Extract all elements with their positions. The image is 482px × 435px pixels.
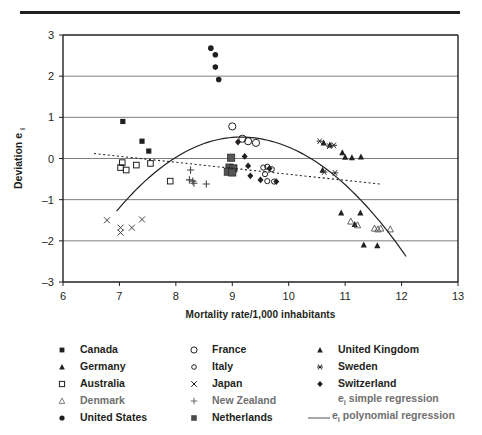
legend-item[interactable]: New Zealand [184,392,306,409]
series-switzerland [235,139,279,185]
cross-x-icon [184,375,210,392]
data-point [216,77,222,83]
data-point [213,64,219,70]
filled-triangle-icon [52,358,78,375]
legend-item-label: United States [78,409,147,426]
data-point [361,242,367,248]
legend-item[interactable]: ei polynomial regression [310,409,475,426]
legend-item-label: New Zealand [210,392,276,409]
series-japan [104,216,145,235]
data-point [123,167,129,173]
filled-square-icon [52,341,78,358]
line-solid-icon [304,409,330,426]
data-point [148,161,154,167]
data-point [247,172,253,179]
filled-square-grey-icon [184,409,210,426]
open-triangle-icon [52,392,78,409]
filled-diamond-icon [310,375,336,392]
y-tick-label: 1 [48,111,54,123]
legend-item[interactable]: Japan [184,375,306,392]
legend-item[interactable]: Australia [52,375,180,392]
chart-legend: CanadaGermanyAustraliaDenmarkUnited Stat… [52,341,472,429]
legend-column-1: CanadaGermanyAustraliaDenmarkUnited Stat… [52,341,180,426]
data-point [252,139,259,146]
legend-item-label: Canada [78,341,118,358]
y-tick-label: –2 [42,235,54,247]
legend-item[interactable]: Germany [52,358,180,375]
data-point [267,165,273,172]
x-tick-label: 9 [229,290,235,302]
series-germany [327,142,381,249]
filled-triangle-uk-icon [310,341,336,358]
legend-item-label: Australia [78,375,125,392]
data-point [104,217,110,223]
x-axis-title: Mortality rate/1,000 inhabitants [186,309,336,320]
series-canada [120,119,151,154]
data-point [262,172,267,177]
x-tick-label: 8 [173,290,179,302]
data-point [348,218,354,224]
x-tick-label: 7 [116,290,122,302]
series-netherlands [224,154,237,176]
data-point [186,176,193,183]
data-point [235,139,241,146]
legend-item[interactable]: Sweden [310,358,475,375]
data-point [357,209,363,215]
open-circle-small-icon [184,358,210,375]
data-point [139,139,144,144]
data-point [203,180,210,187]
legend-item[interactable]: France [184,341,306,358]
data-point [167,178,173,184]
data-point [374,242,380,248]
x-tick-label: 12 [395,290,407,302]
data-point [187,166,194,173]
y-tick-label: –3 [42,276,54,288]
legend-item[interactable]: Netherlands [184,409,306,426]
data-point [213,52,219,58]
data-point [134,162,140,168]
legend-item-label: Italy [210,358,233,375]
filled-circle-icon [52,409,78,426]
legend-item[interactable]: Canada [52,341,180,358]
data-point [118,230,124,236]
legend-item-label: Germany [78,358,126,375]
x-tick-label: 13 [452,290,464,302]
data-point [358,153,364,159]
data-point [338,209,344,215]
data-point [129,225,135,231]
data-point [118,225,124,231]
series-united-kingdom [319,139,326,172]
x-tick-label: 6 [60,290,66,302]
y-tick-label: –1 [42,194,54,206]
legend-item-label: Denmark [78,392,125,409]
legend-item-label: United Kingdom [336,341,419,358]
x-tick-label: 10 [283,290,295,302]
legend-item[interactable]: United Kingdom [310,341,475,358]
legend-item[interactable]: United States [52,409,180,426]
legend-column-2: FranceItalyJapanNew ZealandNetherlands [184,341,306,426]
svg-text:Deviation e i: Deviation e i [12,128,27,189]
data-point [332,170,338,176]
series-united-states [208,45,222,82]
data-point [265,179,270,184]
legend-item-label: ei polynomial regression [330,407,455,428]
data-point [258,177,264,184]
legend-item-label: Japan [210,375,242,392]
legend-column-3: United KingdomSwedenSwitzerlandei simple… [310,341,475,426]
data-point [146,148,151,153]
data-point [228,154,235,161]
legend-item[interactable]: Italy [184,358,306,375]
data-point [245,163,251,170]
data-point [229,169,236,176]
legend-label-suffix: simple regression [346,392,439,404]
y-axis-title: Deviation e i [12,128,27,189]
data-point [339,149,345,155]
series-new-zealand [186,166,210,187]
data-point [208,45,214,51]
data-point [120,119,125,124]
legend-item-label: Sweden [336,358,378,375]
asterisk-icon [310,358,336,375]
legend-item[interactable]: Denmark [52,392,180,409]
open-square-icon [52,375,78,392]
y-tick-label: 3 [48,29,54,41]
